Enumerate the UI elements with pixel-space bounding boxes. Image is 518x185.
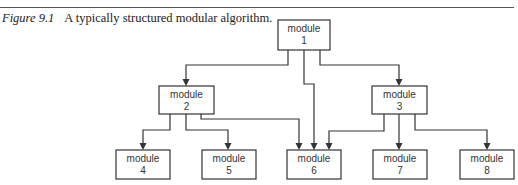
module-word: module <box>384 153 417 164</box>
module-2-node: module2 <box>159 86 214 114</box>
module-word: module <box>170 89 203 100</box>
module-7-node: module7 <box>373 150 427 179</box>
edge-1-3 <box>320 50 403 86</box>
connector-line <box>415 114 487 145</box>
arrowhead-icon <box>396 143 403 150</box>
edge-1-6 <box>304 50 318 150</box>
connector-line <box>329 114 384 145</box>
module-number: 4 <box>140 165 146 176</box>
edge-1-2 <box>183 50 289 86</box>
module-diagram: module1module2module3module4module5modul… <box>0 0 518 185</box>
arrowhead-icon <box>326 143 333 150</box>
module-word: module <box>383 89 416 100</box>
connector-line <box>320 50 399 81</box>
edge-3-8 <box>415 114 491 150</box>
module-number: 1 <box>301 35 307 46</box>
connector-line <box>143 114 170 145</box>
module-number: 8 <box>484 165 490 176</box>
module-3-node: module3 <box>372 86 427 114</box>
arrowhead-icon <box>396 79 403 86</box>
edge-3-7 <box>396 114 403 150</box>
module-word: module <box>298 153 331 164</box>
module-1-node: module1 <box>278 20 330 50</box>
arrowhead-icon <box>225 143 232 150</box>
arrowhead-icon <box>484 143 491 150</box>
module-8-node: module8 <box>460 150 514 179</box>
module-number: 7 <box>397 165 403 176</box>
module-4-node: module4 <box>116 150 170 179</box>
edge-3-6 <box>326 114 385 150</box>
arrowhead-icon <box>296 143 303 150</box>
arrowhead-icon <box>183 79 190 86</box>
module-5-node: module5 <box>202 150 256 179</box>
edge-2-4 <box>140 114 171 150</box>
arrowhead-icon <box>140 143 147 150</box>
connector-line <box>304 50 314 145</box>
module-6-node: module6 <box>287 150 341 179</box>
module-word: module <box>471 153 504 164</box>
module-number: 2 <box>184 101 190 112</box>
module-number: 5 <box>226 165 232 176</box>
module-number: 3 <box>397 101 403 112</box>
module-number: 6 <box>311 165 317 176</box>
arrowhead-icon <box>311 143 318 150</box>
edge-2-6 <box>201 114 303 150</box>
connector-line <box>186 50 288 81</box>
module-word: module <box>288 23 321 34</box>
module-word: module <box>213 153 246 164</box>
module-word: module <box>127 153 160 164</box>
